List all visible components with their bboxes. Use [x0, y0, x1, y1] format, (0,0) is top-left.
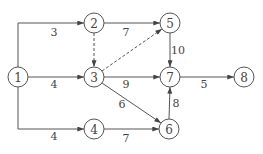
node-1: 1: [8, 67, 28, 87]
edge-weight-4-6: 7: [123, 132, 130, 145]
network-diagram: 12345678 34479671085: [0, 0, 263, 154]
node-label: 1: [14, 71, 22, 85]
node-6: 6: [159, 119, 179, 139]
edge-weight-1-4: 4: [51, 130, 58, 143]
node-label: 4: [90, 123, 98, 137]
node-2: 2: [84, 13, 104, 33]
edge-weight-1-2: 3: [51, 26, 58, 39]
node-label: 2: [90, 17, 98, 31]
dummy-edge-3-5: [102, 29, 162, 71]
node-label: 8: [240, 71, 248, 85]
node-7: 7: [160, 67, 180, 87]
edge-weight-3-6: 6: [119, 98, 126, 111]
node-label: 7: [166, 71, 174, 85]
edge-weight-5-7: 10: [171, 44, 185, 57]
edge-3-6: [102, 83, 161, 123]
edge-weight-1-3: 4: [51, 78, 58, 91]
node-label: 6: [165, 123, 173, 137]
node-5: 5: [160, 13, 180, 33]
edge-weight-3-7: 9: [123, 78, 130, 91]
node-4: 4: [84, 119, 104, 139]
edge-weight-7-8: 5: [201, 78, 208, 91]
edge-1-4: [18, 87, 84, 129]
edge-weight-2-5: 7: [123, 26, 130, 39]
edge-6-7: [169, 87, 170, 119]
node-3: 3: [84, 67, 104, 87]
node-label: 3: [90, 71, 98, 85]
edge-weight-6-7: 8: [173, 97, 180, 110]
node-8: 8: [234, 67, 254, 87]
node-label: 5: [166, 17, 174, 31]
